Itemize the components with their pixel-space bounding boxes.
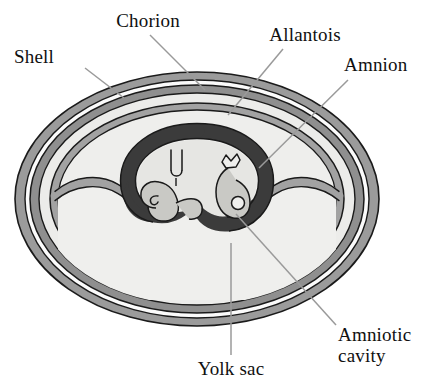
label-yolk-sac: Yolk sac <box>198 358 265 379</box>
amniote-egg-diagram: Chorion Allantois Shell Amnion Amniotic … <box>0 0 437 391</box>
label-amnion: Amnion <box>344 54 407 75</box>
label-allantois: Allantois <box>269 24 340 45</box>
label-amniotic-cavity: Amniotic cavity <box>338 324 411 366</box>
label-chorion: Chorion <box>116 10 180 31</box>
label-shell: Shell <box>14 46 54 67</box>
